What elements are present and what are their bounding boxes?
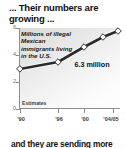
page-title: ... Their numbers are growing ... [9, 3, 121, 24]
footer-caption-text: and they are sending more [11, 139, 113, 148]
line-chart: 6 4 2 0 '90 '96 '00 '04/05 Mill [8, 27, 120, 125]
chart-caption: Millions of illegal Mexican immigrants l… [21, 30, 73, 60]
footer-caption: and they are sending more [0, 135, 126, 148]
estimates-note: Estimates [22, 100, 47, 106]
value-annotation: 6.3 million [72, 61, 112, 69]
infographic-panel: ... Their numbers are growing ... 6 4 2 … [0, 0, 126, 148]
